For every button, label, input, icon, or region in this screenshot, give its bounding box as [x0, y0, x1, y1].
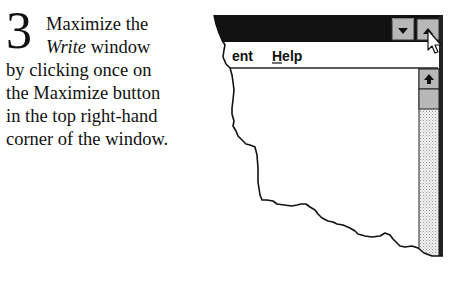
- window-border: [439, 15, 443, 260]
- window-fragment: [200, 0, 462, 284]
- scroll-thumb: [419, 89, 439, 109]
- menu-item-document-partial: ent: [232, 48, 253, 64]
- vertical-scrollbar[interactable]: [419, 69, 439, 259]
- menu-item-help[interactable]: Help: [272, 48, 302, 64]
- minimize-button[interactable]: [392, 19, 414, 40]
- torn-window-screenshot: ent Help: [0, 0, 462, 284]
